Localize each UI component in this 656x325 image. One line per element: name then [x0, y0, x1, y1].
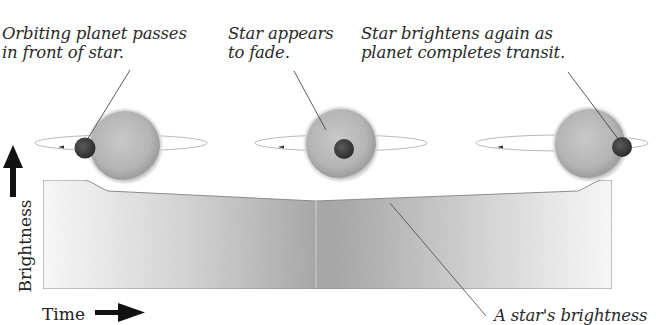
- light-curve: [43, 180, 612, 316]
- stage-1-ingress: [35, 70, 207, 183]
- y-axis-label: Brightness: [15, 191, 35, 301]
- light-curve-area: [43, 180, 612, 289]
- caption-line: planet completes transit.: [361, 43, 565, 62]
- caption-ingress: Orbiting planet passes in front of star.: [2, 24, 187, 62]
- caption-line: Orbiting planet passes: [2, 24, 187, 43]
- caption-line: Star appears: [228, 24, 333, 43]
- caption-line: A star's brightness: [494, 306, 647, 325]
- orbit-arrow-icon: [58, 146, 64, 149]
- planet: [612, 137, 632, 157]
- caption-light-curve: A star's brightness: [494, 306, 647, 325]
- caption-egress: Star brightens again as planet completes…: [361, 24, 565, 62]
- stage-3-egress: [476, 72, 648, 181]
- caption-line: to fade.: [228, 43, 333, 62]
- stage-2-mid-transit: [255, 71, 427, 181]
- orbit-arrow-icon: [278, 146, 284, 149]
- planet: [75, 138, 96, 159]
- caption-mid-transit: Star appears to fade.: [228, 24, 333, 62]
- caption-line: in front of star.: [2, 43, 187, 62]
- time-arrow-icon: [95, 303, 145, 322]
- planet: [334, 139, 354, 159]
- brightness-arrow-icon: [3, 145, 23, 197]
- leader-line: [294, 71, 326, 130]
- x-axis-label: Time: [42, 304, 85, 324]
- caption-line: Star brightens again as: [361, 24, 565, 43]
